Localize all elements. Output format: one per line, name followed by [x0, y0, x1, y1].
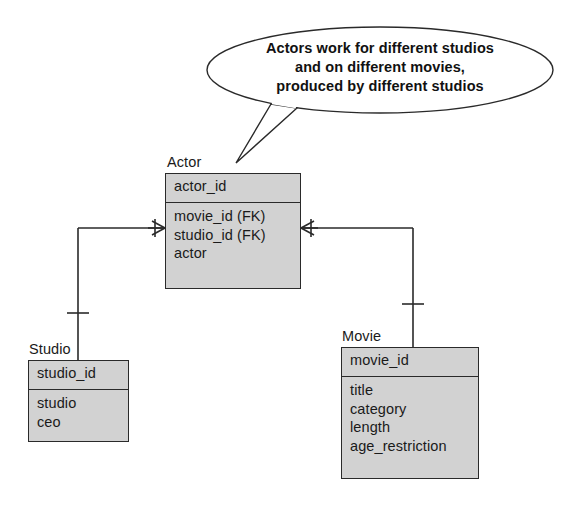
entity-title-studio: Studio	[29, 341, 71, 357]
attribute-actor-movie-id-fk: movie_id (FK)	[174, 207, 292, 226]
attribute-movie-length: length	[350, 418, 470, 437]
er-diagram-canvas: Actors work for different studios and on…	[0, 0, 575, 508]
entity-studio[interactable]: studio_id studio ceo	[28, 360, 129, 442]
attribute-actor-studio-id-fk: studio_id (FK)	[174, 226, 292, 245]
speech-bubble-tail-join-mask	[272, 103, 296, 107]
entity-title-movie: Movie	[342, 328, 381, 344]
entity-studio-fields-section: studio ceo	[29, 390, 128, 436]
speech-bubble-text: Actors work for different studios and on…	[213, 39, 547, 96]
attribute-actor-id: actor_id	[174, 177, 292, 196]
actor-crowsfoot-right-lower	[301, 228, 314, 235]
entity-actor[interactable]: actor_id movie_id (FK) studio_id (FK) ac…	[165, 173, 301, 289]
speech-bubble-tail	[236, 104, 297, 163]
actor-crowsfoot-right-upper	[301, 221, 314, 228]
entity-title-actor: Actor	[167, 154, 201, 170]
attribute-movie-title: title	[350, 381, 470, 400]
entity-movie-fields-section: title category length age_restriction	[342, 377, 478, 460]
entity-movie-key-section: movie_id	[342, 348, 478, 377]
speech-bubble-line-1: Actors work for different studios	[213, 39, 547, 58]
actor-crowsfoot-left-lower	[152, 228, 165, 235]
relationship-line-studio-actor	[67, 219, 165, 360]
attribute-movie-id: movie_id	[350, 351, 470, 370]
attribute-movie-age-restriction: age_restriction	[350, 437, 470, 456]
speech-bubble-line-3: produced by different studios	[213, 77, 547, 96]
attribute-movie-category: category	[350, 400, 470, 419]
entity-movie[interactable]: movie_id title category length age_restr…	[341, 347, 479, 479]
speech-bubble-line-2: and on different movies,	[213, 58, 547, 77]
attribute-studio-studio: studio	[37, 394, 120, 413]
entity-actor-fields-section: movie_id (FK) studio_id (FK) actor	[166, 203, 300, 268]
attribute-studio-id: studio_id	[37, 364, 120, 383]
attribute-studio-ceo: ceo	[37, 413, 120, 432]
entity-actor-key-section: actor_id	[166, 174, 300, 203]
entity-studio-key-section: studio_id	[29, 361, 128, 390]
attribute-actor-actor: actor	[174, 244, 292, 263]
actor-crowsfoot-left-upper	[152, 221, 165, 228]
